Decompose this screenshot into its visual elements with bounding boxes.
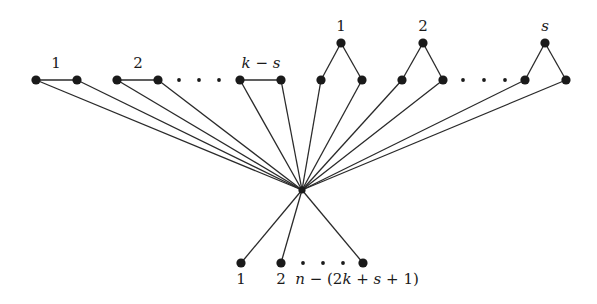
vertex (31, 75, 40, 84)
ellipsis-dot (197, 78, 201, 82)
pendant-label: 1 (236, 270, 246, 288)
pendant-edge (281, 190, 302, 263)
ellipsis-dot (341, 261, 345, 265)
hub-edge (302, 80, 402, 190)
cherry-leaf-vertex (397, 75, 406, 84)
cherry-edge (423, 43, 443, 80)
cherry-top-vertex (418, 38, 427, 47)
edge-group-label: 1 (51, 54, 61, 72)
edge-group-label: 2 (133, 54, 143, 72)
hub-edge (36, 80, 302, 190)
vertex (72, 75, 81, 84)
hub-edge (240, 80, 302, 190)
ellipsis-dot (503, 78, 507, 82)
hub-edge (117, 80, 302, 190)
pendant-edge (302, 190, 363, 263)
cherry-leaf-vertex (520, 75, 529, 84)
cherry-leaf-vertex (561, 75, 570, 84)
pendant-vertex (358, 258, 367, 267)
vertex (112, 75, 121, 84)
vertex (153, 75, 162, 84)
cherry-top-vertex (540, 38, 549, 47)
pendant-vertex (236, 258, 245, 267)
hub-edge (77, 80, 302, 190)
vertex (235, 75, 244, 84)
ellipsis-dot (301, 261, 305, 265)
cherry-edge (525, 43, 545, 80)
cherry-leaf-vertex (316, 75, 325, 84)
ellipsis-dot (217, 78, 221, 82)
cherry-label: 1 (336, 17, 346, 35)
pendant-vertex (276, 258, 285, 267)
hub-edge (302, 80, 443, 190)
ellipsis-dot (461, 78, 465, 82)
hub-vertex (298, 186, 305, 193)
ellipsis-dot (321, 261, 325, 265)
pendant-count-label: n − (2k + s + 1) (295, 270, 419, 288)
pendant-label: 2 (276, 270, 286, 288)
cherry-edge (341, 43, 362, 80)
nodes-layer (31, 38, 570, 267)
pendant-edge (241, 190, 302, 263)
graph-diagram: 12k − s12s12n − (2k + s + 1) (0, 0, 597, 304)
hub-edge (302, 80, 525, 190)
cherry-leaf-vertex (438, 75, 447, 84)
hub-edge (158, 80, 302, 190)
cherry-edge (402, 43, 423, 80)
vertex (276, 75, 285, 84)
hub-edge (302, 80, 566, 190)
cherry-label: 2 (418, 17, 428, 35)
cherry-edge (545, 43, 566, 80)
cherry-label: s (541, 17, 549, 35)
ellipsis-dot (482, 78, 486, 82)
ellipsis-dot (177, 78, 181, 82)
cherry-leaf-vertex (357, 75, 366, 84)
labels-layer: 12k − s12s12n − (2k + s + 1) (51, 17, 549, 288)
cherry-edge (321, 43, 341, 80)
edge-group-label: k − s (242, 54, 281, 72)
cherry-top-vertex (336, 38, 345, 47)
hub-edge (281, 80, 302, 190)
